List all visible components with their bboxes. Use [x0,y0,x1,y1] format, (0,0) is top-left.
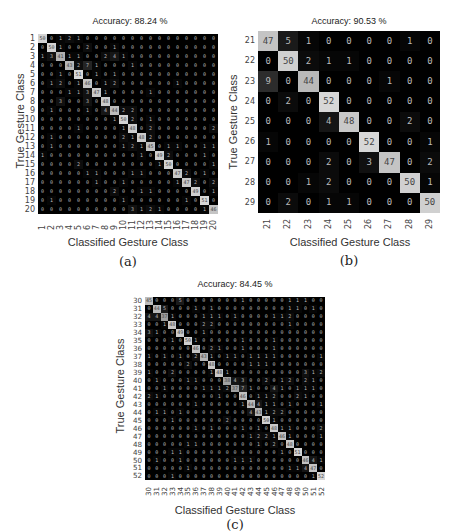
x-tick-label: 4 [66,225,74,230]
matrix-cell: 1 [400,31,420,51]
matrix-cell: 1 [309,305,317,313]
matrix-cell: 0 [247,305,255,313]
matrix-cell: 1 [192,424,200,432]
matrix-cell: 0 [231,432,239,440]
matrix-cell: 0 [208,400,216,408]
matrix-cell: 0 [145,361,153,369]
matrix-cell: 0 [164,43,173,52]
matrix-cell: 0 [101,178,110,187]
matrix-cell: 0 [286,392,294,400]
matrix-cell: 1 [161,408,169,416]
matrix-cell: 2 [184,361,192,369]
matrix-cell: 0 [317,313,325,321]
matrix-cell: 1 [379,71,399,91]
matrix-cell: 0 [262,337,270,345]
matrix-cell: 1 [153,408,161,416]
matrix-cell: 0 [302,416,310,424]
matrix-cell: 0 [231,464,239,472]
matrix-cell: 0 [420,92,440,112]
matrix-cell: 2 [209,178,218,187]
matrix-cell: 0 [128,88,137,97]
matrix-cell: 0 [319,132,339,152]
matrix-cell: 1 [286,432,294,440]
matrix-cell: 0 [255,464,263,472]
matrix-cell: 0 [145,337,153,345]
matrix-cell: 0 [153,321,161,329]
matrix-cell: 0 [173,61,182,70]
matrix-cell: 0 [38,88,47,97]
matrix-cell: 0 [92,205,101,214]
matrix-cell: 0 [317,321,325,329]
matrix-cell: 47 [309,464,317,472]
matrix-cell: 0 [38,61,47,70]
matrix-cell: 0 [153,345,161,353]
caption-c: (c) [205,517,265,531]
matrix-cell: 0 [161,472,169,480]
matrix-cell: 1 [294,464,302,472]
matrix-cell: 0 [231,369,239,377]
y-axis-label: True Gesture Class [14,61,26,181]
matrix-cell: 1 [270,337,278,345]
matrix-cell: 0 [101,43,110,52]
matrix-cell: 0 [294,321,302,329]
matrix-cell: 0 [184,448,192,456]
matrix-cell: 1 [176,408,184,416]
matrix-cell: 0 [223,464,231,472]
x-tick-label: 28 [406,219,414,229]
matrix-cell: 1 [110,70,119,79]
matrix-cell: 3 [83,88,92,97]
matrix-cell: 1 [247,456,255,464]
matrix-cell: 0 [56,133,65,142]
matrix-cell: 0 [101,187,110,196]
matrix-cell: 3 [56,97,65,106]
matrix-cell: 44 [153,305,161,313]
matrix-cell: 0 [56,151,65,160]
matrix-cell: 0 [247,392,255,400]
matrix-cell: 0 [309,361,317,369]
matrix-cell: 0 [302,440,310,448]
matrix-cell: 0 [258,193,278,213]
matrix-cell: 0 [38,97,47,106]
x-tick-label: 10 [120,220,128,230]
matrix-cell: 50 [278,51,298,71]
matrix-cell: 1 [146,187,155,196]
x-tick-label: 44 [255,487,262,496]
matrix-cell: 0 [239,305,247,313]
matrix-cell: 0 [239,472,247,480]
matrix-cell: 0 [400,71,420,91]
matrix-cell: 0 [184,385,192,393]
matrix-cell: 0 [319,31,339,51]
matrix-cell: 0 [101,142,110,151]
matrix-cell: 0 [38,79,47,88]
matrix-cell: 0 [153,424,161,432]
matrix-cell: 0 [56,169,65,178]
matrix-cell: 1 [137,142,146,151]
matrix-cell: 4 [319,112,339,132]
x-tick-label: 22 [284,219,292,229]
matrix-cell: 48 [137,133,146,142]
matrix-cell: 44 [298,71,318,91]
matrix-cell: 2 [286,313,294,321]
matrix-cell: 0 [191,124,200,133]
matrix-cell: 0 [65,196,74,205]
matrix-cell: 0 [270,448,278,456]
matrix-cell: 0 [128,52,137,61]
matrix-cell: 0 [191,169,200,178]
y-tick-label: 20 [15,206,35,214]
matrix-cell: 0 [247,313,255,321]
matrix-cell: 0 [255,297,263,305]
matrix-cell: 1 [168,416,176,424]
matrix-cell: 0 [255,345,263,353]
matrix-cell: 0 [286,416,294,424]
matrix-cell: 1 [208,385,216,393]
matrix-cell: 0 [255,385,263,393]
matrix-cell: 1 [223,369,231,377]
y-tick-label: 21 [235,37,255,45]
matrix-cell: 0 [128,178,137,187]
matrix-cell: 0 [278,440,286,448]
matrix-cell: 0 [92,52,101,61]
matrix-cell: 3 [145,329,153,337]
matrix-cell: 0 [176,369,184,377]
matrix-cell: 0 [215,361,223,369]
matrix-cell: 1 [74,79,83,88]
